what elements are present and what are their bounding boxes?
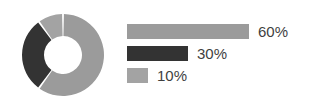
legend-item-60[interactable]: 60% [127,24,288,39]
legend-item-30[interactable]: 30% [127,46,227,61]
chart-legend: 60% 30% 10% [127,24,311,88]
donut-chart [21,13,105,97]
donut-chart-figure: 60% 30% 10% [0,0,311,106]
legend-label-30: 30% [197,46,227,61]
donut-chart-svg [21,13,105,97]
donut-slice-30[interactable] [22,22,51,87]
legend-label-10: 10% [157,68,187,83]
donut-slice-group [22,14,104,96]
legend-swatch-bar-60 [127,24,249,39]
legend-swatch-bar-10 [127,68,148,83]
legend-label-60: 60% [258,24,288,39]
legend-item-10[interactable]: 10% [127,68,187,83]
legend-swatch-bar-30 [127,46,188,61]
